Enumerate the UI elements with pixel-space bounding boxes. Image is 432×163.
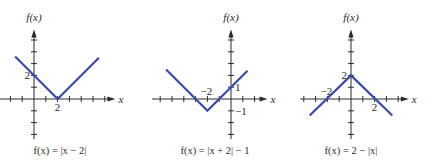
y-axis-arrow-icon <box>228 29 233 37</box>
y-axis-label: f(x) <box>343 11 359 24</box>
tick-label: −2 <box>201 85 213 97</box>
x-axis-arrow-icon <box>401 96 409 101</box>
absolute-value-graphs-figure: f(x)x22f(x) = |x − 2|f(x)x−21−1f(x) = |x… <box>0 0 432 163</box>
function-caption: f(x) = 2 − |x| <box>325 145 378 157</box>
x-axis-label: x <box>270 93 276 105</box>
tick-label: 1 <box>235 81 241 93</box>
tick-label: 2 <box>55 101 61 113</box>
graph-2: f(x)x−21−1f(x) = |x + 2| − 1 <box>152 11 276 157</box>
tick-label: −2 <box>321 85 333 97</box>
tick-label: 2 <box>372 101 378 113</box>
graph-1: f(x)x22f(x) = |x − 2| <box>0 11 123 157</box>
tick-label: 2 <box>25 69 31 81</box>
x-axis-arrow-icon <box>260 96 268 101</box>
graph-3: f(x)x−222f(x) = 2 − |x| <box>300 11 417 157</box>
tick-label: −1 <box>235 105 247 117</box>
x-axis-arrow-icon <box>107 96 115 101</box>
function-caption: f(x) = |x + 2| − 1 <box>180 145 249 157</box>
graphs-canvas: f(x)x22f(x) = |x − 2|f(x)x−21−1f(x) = |x… <box>0 0 432 163</box>
y-axis-arrow-icon <box>348 29 353 37</box>
function-caption: f(x) = |x − 2| <box>34 145 87 157</box>
x-axis-label: x <box>117 93 123 105</box>
x-axis-label: x <box>411 93 417 105</box>
y-axis-label: f(x) <box>223 11 239 24</box>
y-axis-label: f(x) <box>26 11 42 24</box>
y-axis-arrow-icon <box>31 29 36 37</box>
tick-label: 2 <box>342 69 348 81</box>
